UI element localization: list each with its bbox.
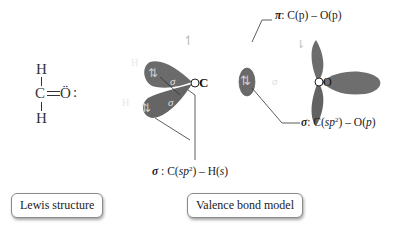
pi-leader-line: [252, 20, 272, 42]
sigma-ch-sp: sp: [179, 165, 189, 177]
sigma-co-label: σ: C(sp2) – O(p): [301, 116, 376, 128]
sigma-co-symbol: σ: [272, 75, 277, 87]
oxygen-label: O: [323, 75, 332, 90]
oxygen-nucleus: [315, 78, 323, 86]
pi-top-spin-icon: ↿: [183, 33, 194, 48]
sigma-ch-bottom-spin-pair-icon: ⇅: [141, 101, 151, 115]
oxygen-p-lobe-up: [312, 40, 324, 82]
sigma-ch-top-symbol: σ: [170, 75, 175, 87]
hydrogen-top-label: H: [131, 57, 138, 68]
pi-orbital-top-lobe: [156, 21, 308, 74]
sigma-co-pre: : C(: [307, 116, 325, 128]
pi-bond-label: π: C(p) – O(p): [275, 9, 342, 21]
sigma-ch-mid: ) – H(: [192, 165, 219, 177]
sigma-ch-pre: : C(: [158, 165, 178, 177]
sigma-co-spin-pair-icon: ⇅: [240, 73, 251, 88]
sigma-ch-label: σ : C(sp2) – H(s): [152, 165, 228, 177]
valence-bond-caption: Valence bond model: [187, 193, 303, 218]
sigma-ch-top-spin-pair-icon: ⇅: [148, 66, 158, 80]
pi-bond-text: : C(p) – O(p): [281, 9, 341, 21]
sigma-ch-end: ): [224, 165, 228, 177]
sigma-co-mid: ) – O(: [339, 116, 366, 128]
hydrogen-bottom-label: H: [122, 97, 129, 108]
sigma-co-bond: [198, 68, 314, 96]
sigma-co-sp: sp: [325, 116, 335, 128]
pi-top-spin-down-icon: ⇂: [296, 38, 305, 51]
carbon-nucleus: [191, 79, 199, 87]
sigma-co-leader-line: [252, 88, 300, 123]
lewis-structure-caption: Lewis structure: [11, 193, 103, 218]
sigma-ch-leader-line-2: [155, 118, 190, 140]
sigma-ch-bottom-symbol: σ: [168, 96, 173, 108]
carbon-label: C: [199, 75, 208, 91]
sigma-ch-leader-line: [188, 90, 195, 160]
sigma-co-end: ): [372, 116, 376, 128]
